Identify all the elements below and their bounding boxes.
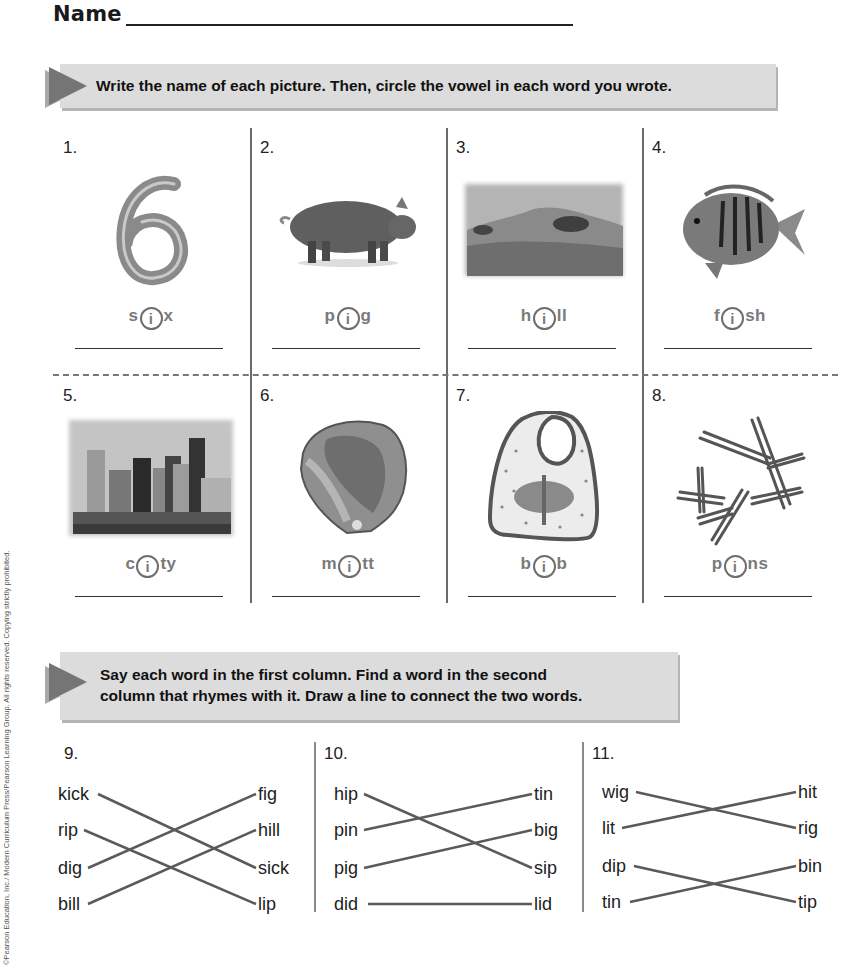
- answer-line[interactable]: [75, 596, 223, 597]
- answer-line[interactable]: [272, 596, 420, 597]
- left-word[interactable]: lit: [602, 818, 615, 839]
- left-word[interactable]: hip: [334, 784, 358, 805]
- fish-icon: [642, 166, 838, 294]
- circled-vowel: i: [533, 307, 556, 330]
- left-word[interactable]: did: [334, 894, 358, 915]
- item-number: 6.: [260, 386, 274, 406]
- answer-line[interactable]: [664, 348, 812, 349]
- picture-cell-5: 5. city: [53, 376, 249, 613]
- instruction-line-2: column that rhymes with it. Draw a line …: [100, 685, 582, 706]
- left-word[interactable]: bill: [58, 894, 80, 915]
- left-word[interactable]: kick: [58, 784, 89, 805]
- word-answer: bib: [446, 554, 642, 578]
- right-word[interactable]: lip: [258, 894, 276, 915]
- picture-cell-6: 6. mitt: [250, 376, 446, 613]
- circled-vowel: i: [338, 555, 361, 578]
- right-word[interactable]: sip: [534, 858, 557, 879]
- picture-grid: 1. six 2. pig: [53, 128, 838, 603]
- circled-vowel: i: [337, 307, 360, 330]
- left-word[interactable]: tin: [602, 892, 621, 913]
- left-word[interactable]: dig: [58, 858, 82, 879]
- instruction-banner-2: Say each word in the first column. Find …: [60, 652, 678, 720]
- item-number: 7.: [456, 386, 470, 406]
- copyright-notice: ©Pearson Education, Inc./ Modern Curricu…: [2, 425, 11, 965]
- item-number: 3.: [456, 138, 470, 158]
- answer-line[interactable]: [664, 596, 812, 597]
- right-word[interactable]: bin: [798, 856, 822, 877]
- word-answer: hill: [446, 306, 642, 330]
- left-word[interactable]: pin: [334, 820, 358, 841]
- hill-icon: [446, 166, 642, 294]
- name-row: Name: [53, 2, 573, 26]
- item-number: 1.: [63, 138, 77, 158]
- instruction-line-1: Say each word in the first column. Find …: [100, 664, 582, 685]
- answer-line[interactable]: [272, 348, 420, 349]
- right-word[interactable]: tip: [798, 892, 817, 913]
- rhyme-group-10: 10. hip pin pig did tin big sip lid: [322, 740, 572, 920]
- name-input-line[interactable]: [126, 4, 573, 26]
- answer-line[interactable]: [468, 348, 616, 349]
- instruction-text-1: Write the name of each picture. Then, ci…: [96, 75, 672, 96]
- item-number: 4.: [652, 138, 666, 158]
- divider: [582, 742, 584, 912]
- circled-vowel: i: [140, 307, 163, 330]
- instruction-text-2: Say each word in the first column. Find …: [100, 664, 582, 706]
- circled-vowel: i: [724, 555, 747, 578]
- item-number: 2.: [260, 138, 274, 158]
- picture-cell-3: 3. hill: [446, 128, 642, 365]
- right-word[interactable]: hill: [258, 820, 280, 841]
- left-word[interactable]: wig: [602, 782, 629, 803]
- word-answer: city: [53, 554, 249, 578]
- picture-cell-4: 4. fish: [642, 128, 838, 365]
- left-word[interactable]: dip: [602, 856, 626, 877]
- right-word[interactable]: hit: [798, 782, 817, 803]
- rhyme-group-9: 9. kick rip dig bill fig hill sick lip: [58, 740, 308, 920]
- safety-pins-icon: [642, 414, 838, 542]
- rhyme-group-11: 11. wig lit dip tin hit rig bin tip: [590, 740, 840, 920]
- six-icon: [53, 166, 249, 294]
- circled-vowel: i: [721, 307, 744, 330]
- picture-cell-1: 1. six: [53, 128, 249, 365]
- city-icon: [53, 414, 249, 542]
- instruction-banner-1: Write the name of each picture. Then, ci…: [60, 64, 776, 108]
- word-answer: pins: [642, 554, 838, 578]
- left-word[interactable]: pig: [334, 858, 358, 879]
- item-number: 8.: [652, 386, 666, 406]
- right-word[interactable]: sick: [258, 858, 289, 879]
- bib-icon: [446, 414, 642, 542]
- right-word[interactable]: fig: [258, 784, 277, 805]
- left-word[interactable]: rip: [58, 820, 78, 841]
- picture-cell-8: 8. pins: [642, 376, 838, 613]
- arrow-icon: [49, 67, 87, 105]
- right-word[interactable]: tin: [534, 784, 553, 805]
- word-answer: mitt: [250, 554, 446, 578]
- word-answer: pig: [250, 306, 446, 330]
- picture-cell-7: 7. bib: [446, 376, 642, 613]
- picture-cell-2: 2. pig: [250, 128, 446, 365]
- mitt-icon: [250, 414, 446, 542]
- right-word[interactable]: big: [534, 820, 558, 841]
- arrow-icon: [49, 663, 87, 701]
- answer-line[interactable]: [75, 348, 223, 349]
- word-answer: fish: [642, 306, 838, 330]
- pig-icon: [250, 166, 446, 294]
- right-word[interactable]: rig: [798, 818, 818, 839]
- right-word[interactable]: lid: [534, 894, 552, 915]
- circled-vowel: i: [533, 555, 556, 578]
- answer-line[interactable]: [468, 596, 616, 597]
- name-label: Name: [53, 2, 122, 26]
- item-number: 5.: [63, 386, 77, 406]
- word-answer: six: [53, 306, 249, 330]
- divider: [314, 742, 316, 912]
- circled-vowel: i: [136, 555, 159, 578]
